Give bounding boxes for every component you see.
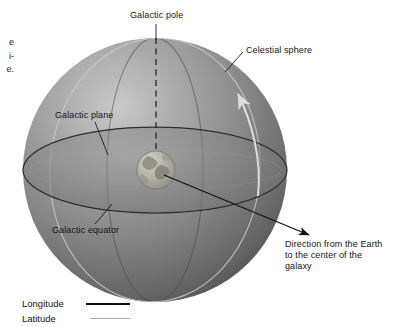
- legend-row-longitude: Longitude: [22, 296, 212, 311]
- caption-fragment-line: e.: [0, 63, 14, 77]
- galactic-coordinates-figure: e i- e. Galactic pole Celestial sphere G…: [0, 0, 393, 327]
- legend-swatch-longitude: [86, 303, 130, 305]
- label-direction-to-galactic-center: Direction from the Earth to the center o…: [285, 239, 391, 272]
- label-galactic-equator: Galactic equator: [52, 225, 119, 236]
- clipped-caption-fragments: e i- e.: [0, 36, 14, 77]
- label-galactic-plane: Galactic plane: [55, 110, 113, 121]
- legend: Longitude Latitude: [22, 296, 212, 326]
- caption-fragment-line: i-: [0, 50, 14, 64]
- legend-swatch-latitude: [90, 318, 130, 319]
- diagram-canvas: [0, 0, 393, 327]
- label-celestial-sphere: Celestial sphere: [246, 45, 312, 56]
- legend-label-longitude: Longitude: [22, 298, 78, 309]
- caption-fragment-line: e: [0, 36, 14, 50]
- legend-label-latitude: Latitude: [22, 313, 78, 324]
- legend-row-latitude: Latitude: [22, 311, 212, 326]
- label-galactic-pole: Galactic pole: [130, 10, 183, 21]
